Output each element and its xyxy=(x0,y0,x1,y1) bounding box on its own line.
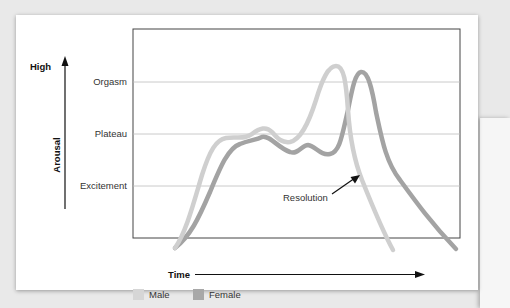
level-label-plateau: Plateau xyxy=(95,128,127,139)
time-arrowhead-icon xyxy=(415,271,425,278)
plot-frame xyxy=(133,29,460,238)
time-axis-label: Time xyxy=(168,269,190,280)
resolution-annotation: Resolution xyxy=(283,192,328,203)
level-label-orgasm: Orgasm xyxy=(93,76,127,87)
legend-swatch-female xyxy=(193,289,204,300)
male-curve xyxy=(175,66,393,250)
arousal-axis-label: Arousal xyxy=(51,137,62,172)
legend-label-male: Male xyxy=(149,289,170,300)
legend-swatch-male xyxy=(133,289,144,300)
resolution-arrowhead-icon xyxy=(351,175,361,184)
legend-label-female: Female xyxy=(209,289,241,300)
level-label-excitement: Excitement xyxy=(80,180,127,191)
arousal-arrowhead-icon xyxy=(62,56,69,66)
high-label: High xyxy=(30,61,51,72)
